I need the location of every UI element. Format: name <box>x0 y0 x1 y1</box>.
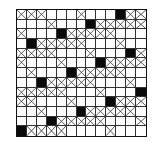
cross-icon <box>67 29 76 38</box>
crossed-cell <box>77 68 87 78</box>
crossed-cell <box>77 117 87 127</box>
crossed-cell <box>126 20 136 30</box>
empty-cell <box>77 88 87 98</box>
crossed-cell <box>57 58 67 68</box>
filled-cell <box>136 88 146 98</box>
empty-cell <box>27 58 37 68</box>
crossed-cell <box>37 49 47 59</box>
crossed-cell <box>86 107 96 117</box>
cross-icon <box>86 78 95 87</box>
empty-cell <box>57 107 67 117</box>
crossed-cell <box>27 10 37 20</box>
cross-icon <box>17 58 26 67</box>
empty-cell <box>116 49 126 59</box>
cross-icon <box>136 97 146 106</box>
cross-icon <box>126 58 135 67</box>
cross-icon <box>77 117 86 126</box>
cross-icon <box>136 10 146 19</box>
crossed-cell <box>126 78 136 88</box>
cross-icon <box>86 68 95 77</box>
cross-icon <box>17 49 26 58</box>
crossed-cell <box>126 107 136 117</box>
empty-cell <box>17 107 27 117</box>
cross-icon <box>57 126 66 136</box>
empty-cell <box>27 78 37 88</box>
crossed-cell <box>106 20 116 30</box>
crossed-cell <box>37 88 47 98</box>
empty-cell <box>106 78 116 88</box>
cross-icon <box>37 88 46 97</box>
cross-icon <box>106 58 115 67</box>
cross-icon <box>37 107 46 116</box>
crossed-cell <box>67 39 77 49</box>
filled-cell <box>96 58 106 68</box>
crossed-cell <box>96 107 106 117</box>
crossed-cell <box>67 29 77 39</box>
empty-cell <box>67 58 77 68</box>
cross-icon <box>106 68 115 77</box>
empty-cell <box>27 107 37 117</box>
empty-cell <box>126 68 136 78</box>
cross-icon <box>116 20 125 29</box>
empty-cell <box>106 10 116 20</box>
crossed-cell <box>86 49 96 59</box>
crossed-cell <box>17 88 27 98</box>
crossed-cell <box>77 10 87 20</box>
empty-cell <box>47 97 57 107</box>
crossed-cell <box>136 58 146 68</box>
crossed-cell <box>96 88 106 98</box>
empty-cell <box>116 78 126 88</box>
crossed-cell <box>136 20 146 30</box>
crossed-cell <box>17 10 27 20</box>
crossed-cell <box>96 68 106 78</box>
crossed-cell <box>116 58 126 68</box>
empty-cell <box>47 68 57 78</box>
cross-icon <box>17 88 26 97</box>
crossed-cell <box>86 68 96 78</box>
empty-cell <box>86 126 96 136</box>
cross-icon <box>17 97 26 106</box>
cross-icon <box>67 39 76 48</box>
empty-cell <box>136 39 146 49</box>
cross-icon <box>116 68 125 77</box>
empty-cell <box>126 117 136 127</box>
crossed-cell <box>67 117 77 127</box>
cross-icon <box>126 78 135 87</box>
cross-icon <box>27 10 36 19</box>
cross-icon <box>136 20 146 29</box>
crossed-cell <box>27 126 37 136</box>
cross-icon <box>86 29 95 38</box>
empty-cell <box>17 68 27 78</box>
crossed-cell <box>57 39 67 49</box>
empty-cell <box>96 78 106 88</box>
crossed-cell <box>96 29 106 39</box>
crossed-cell <box>57 78 67 88</box>
cross-icon <box>96 107 105 116</box>
filled-cell <box>47 117 57 127</box>
crossed-cell <box>47 126 57 136</box>
cross-icon <box>106 20 115 29</box>
cross-icon <box>106 107 115 116</box>
cross-icon <box>17 29 26 38</box>
empty-cell <box>17 117 27 127</box>
empty-cell <box>126 29 136 39</box>
empty-cell <box>67 107 77 117</box>
crossed-cell <box>126 58 136 68</box>
empty-cell <box>37 117 47 127</box>
filled-cell <box>116 10 126 20</box>
crossed-cell <box>57 126 67 136</box>
cross-icon <box>86 117 95 126</box>
cross-icon <box>96 29 105 38</box>
cross-icon <box>37 49 46 58</box>
cross-icon <box>77 68 86 77</box>
crossed-cell <box>106 29 116 39</box>
crossed-cell <box>47 39 57 49</box>
empty-cell <box>47 29 57 39</box>
empty-cell <box>17 20 27 30</box>
cross-icon <box>126 107 135 116</box>
empty-cell <box>47 58 57 68</box>
cross-icon <box>57 88 66 97</box>
cross-icon <box>27 97 36 106</box>
empty-cell <box>106 39 116 49</box>
cross-icon <box>17 10 26 19</box>
